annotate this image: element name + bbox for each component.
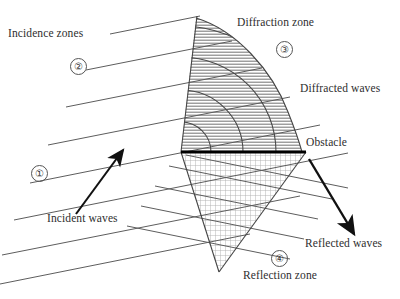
label-reflection-zone: Reflection zone (243, 269, 317, 282)
diagram-canvas (0, 0, 400, 299)
incident-waves-arrow (76, 150, 123, 214)
reflected-waves-arrow (309, 159, 354, 234)
label-obstacle: Obstacle (306, 136, 347, 149)
label-reflected-waves: Reflected waves (305, 237, 382, 250)
label-diffracted-waves: Diffracted waves (300, 82, 380, 95)
zone-marker-3: ③ (276, 41, 293, 58)
diffraction-reflection-diagram: Incidence zones Diffraction zone Diffrac… (0, 0, 400, 299)
zone-marker-1: ① (31, 165, 48, 182)
label-incident-waves: Incident waves (47, 212, 118, 225)
zone-marker-4: ④ (271, 250, 288, 267)
label-incidence-zones: Incidence zones (8, 27, 83, 40)
zone-marker-2: ② (70, 58, 87, 75)
label-diffraction-zone: Diffraction zone (237, 16, 314, 29)
